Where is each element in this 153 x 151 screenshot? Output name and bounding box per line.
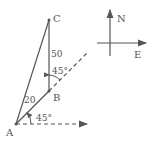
point-C [48, 19, 51, 22]
angle-arc-A [27, 113, 31, 124]
compass-east-label: E [134, 49, 141, 60]
label-AB-length: 20 [24, 95, 36, 105]
point-A [15, 123, 18, 126]
label-BC-length: 50 [51, 49, 63, 59]
label-C: C [53, 13, 61, 24]
compass-north-label: N [117, 13, 126, 24]
label-B: B [53, 92, 60, 103]
label-A: A [5, 127, 14, 138]
diagram: C B A 50 20 45° 45° N E [0, 0, 153, 151]
label-angle-B: 45° [52, 66, 68, 76]
point-B [48, 90, 51, 93]
label-angle-A: 45° [36, 113, 52, 123]
segment-AC [16, 20, 49, 124]
